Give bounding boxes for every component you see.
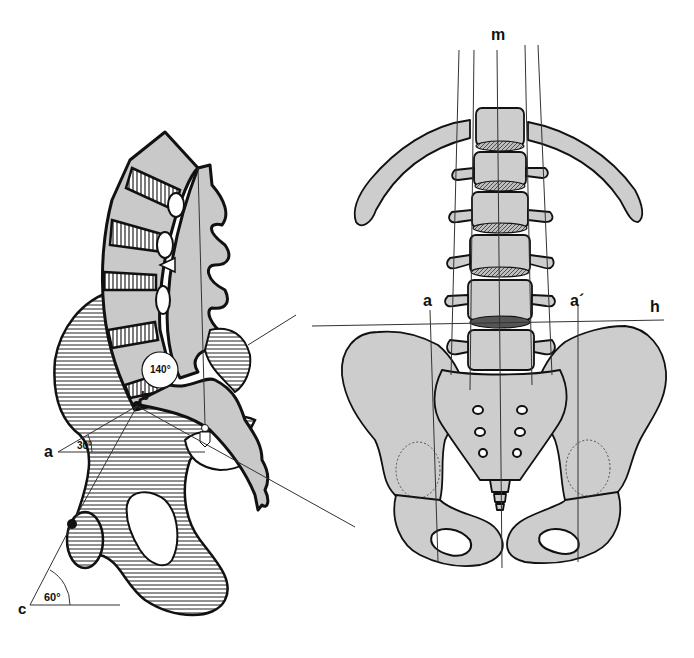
angle-140-label: 140° bbox=[150, 364, 171, 375]
anterior-view: m a a´ h bbox=[312, 26, 666, 568]
line-right-outer bbox=[538, 45, 552, 375]
plumb-bob-ring bbox=[202, 425, 209, 432]
tp-l1-right bbox=[526, 168, 548, 178]
tp-l4-left bbox=[445, 295, 468, 306]
vertebra-T12 bbox=[476, 108, 524, 146]
foramen-1 bbox=[168, 193, 184, 217]
tp-l4-right bbox=[532, 295, 555, 306]
label-a-right: a bbox=[423, 292, 432, 309]
foramen-3 bbox=[156, 286, 170, 314]
tp-l3-left bbox=[447, 255, 470, 268]
label-m: m bbox=[491, 26, 505, 43]
disc-a2 bbox=[475, 181, 525, 191]
disc-a4 bbox=[471, 267, 529, 277]
label-c: c bbox=[18, 600, 26, 617]
vertebra-L5 bbox=[468, 330, 534, 370]
tp-l5-left bbox=[447, 340, 468, 354]
disc-3 bbox=[104, 272, 156, 290]
iliac-line bbox=[248, 315, 296, 345]
coccyx-1 bbox=[490, 480, 510, 492]
coccyx-3 bbox=[496, 504, 504, 510]
lateral-view: 140° b 30° 60° a c bbox=[18, 132, 355, 617]
label-a-left: a bbox=[44, 443, 53, 460]
label-h: h bbox=[650, 298, 660, 315]
point-acetabulum-dot bbox=[67, 519, 77, 529]
label-a-prime: a´ bbox=[570, 292, 584, 309]
anatomy-diagram: 140° b 30° 60° a c bbox=[0, 0, 694, 658]
disc-a3 bbox=[473, 223, 527, 233]
label-b: b bbox=[141, 388, 149, 403]
angle-30-label: 30° bbox=[77, 440, 92, 451]
foramen-2 bbox=[157, 232, 173, 258]
tp-l2-left bbox=[449, 210, 472, 222]
tp-l2-right bbox=[528, 210, 552, 222]
coccyx-2 bbox=[494, 494, 506, 502]
tp-l3-right bbox=[530, 255, 554, 268]
tp-l5-right bbox=[534, 340, 555, 354]
disc-a1 bbox=[476, 141, 524, 151]
angle-60-label: 60° bbox=[44, 591, 61, 603]
